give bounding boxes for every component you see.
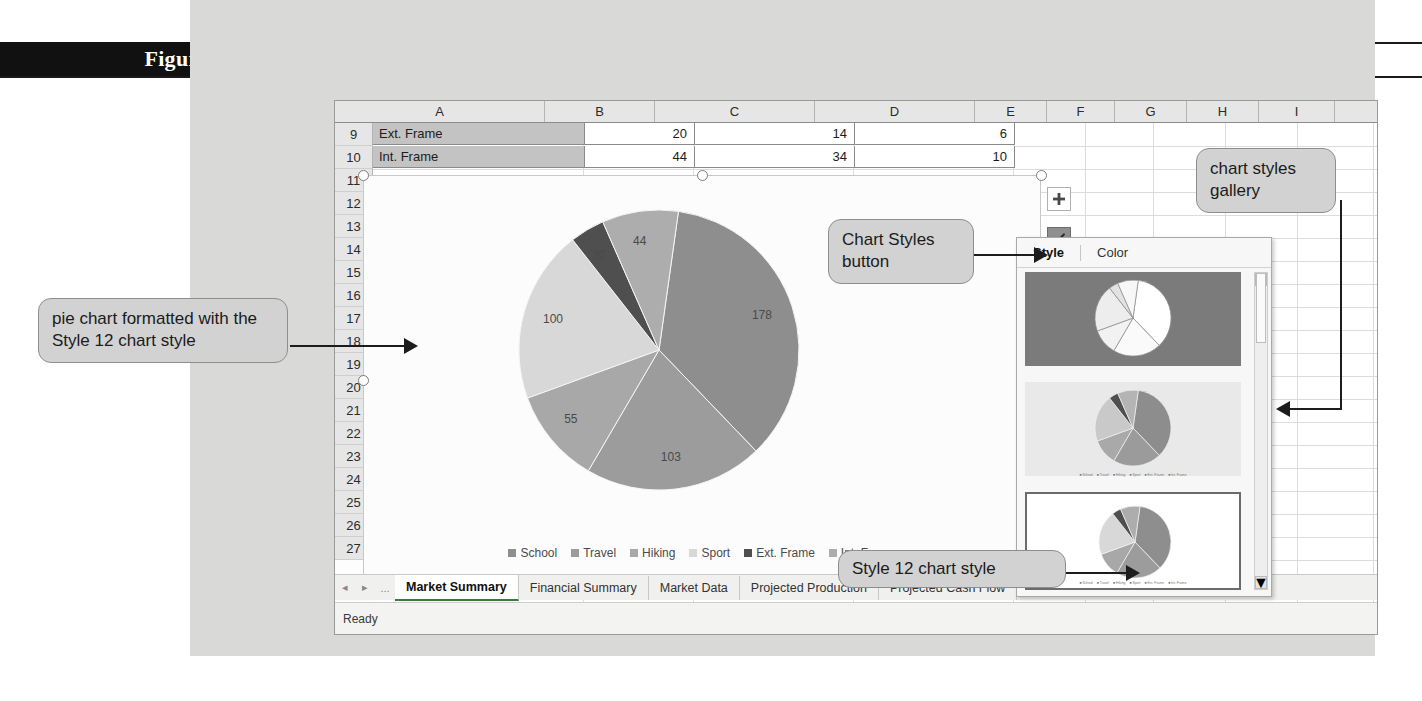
chart-resize-handle[interactable] xyxy=(1036,170,1047,181)
pie-data-label-travel: 103 xyxy=(661,450,681,464)
row-header-9[interactable]: 9 xyxy=(335,123,373,146)
legend-swatch-icon xyxy=(508,549,516,557)
cell-d10[interactable]: 10 xyxy=(855,146,1015,168)
thumbnail-legend-label: ■ School xyxy=(1079,473,1092,477)
plus-icon xyxy=(1051,191,1067,207)
cell-d9[interactable]: 6 xyxy=(855,123,1015,145)
thumbnail-legend-label: ■ Int. Frame xyxy=(1168,473,1186,477)
legend-label: Ext. Frame xyxy=(756,546,815,560)
gallery-tab-bar: Style Color xyxy=(1017,238,1271,268)
arrowhead-gallery xyxy=(1276,401,1290,417)
legend-item: Travel xyxy=(571,546,616,560)
legend-label: School xyxy=(520,546,557,560)
callout-chart-styles-button: Chart Styles button xyxy=(828,219,974,284)
sheet-tab-market-data[interactable]: Market Data xyxy=(649,576,740,600)
legend-swatch-icon xyxy=(630,549,638,557)
grid-vline xyxy=(1373,123,1374,634)
cell-a10[interactable]: Int. Frame xyxy=(373,146,585,168)
legend-label: Hiking xyxy=(642,546,675,560)
chart-resize-handle[interactable] xyxy=(358,375,369,386)
cell-c10[interactable]: 34 xyxy=(695,146,855,168)
legend-item: School xyxy=(508,546,557,560)
legend-item: Hiking xyxy=(630,546,675,560)
scroll-down-arrow-icon[interactable]: ▼ xyxy=(1255,576,1267,589)
pie-data-label-int-frame: 44 xyxy=(633,234,646,248)
sheet-overflow-ellipsis[interactable]: ... xyxy=(375,582,395,594)
pie-data-label-school: 178 xyxy=(752,308,772,322)
callout-chart-styles-gallery: chart styles gallery xyxy=(1196,148,1336,213)
row-header-10[interactable]: 10 xyxy=(335,146,373,169)
cell-b10[interactable]: 44 xyxy=(585,146,695,168)
leader-line-gallery-v xyxy=(1340,200,1342,410)
thumbnail-legend-label: ■ Int. Frame xyxy=(1168,581,1186,585)
status-text: Ready xyxy=(335,612,378,626)
column-header-h[interactable]: H xyxy=(1187,101,1259,122)
callout-style-12: Style 12 chart style xyxy=(838,550,1066,588)
thumbnail-legend-label: ■ Sport xyxy=(1129,581,1140,585)
pie-chart-svg xyxy=(494,200,824,505)
thumbnail-legend-label: ■ Ext. Frame xyxy=(1145,581,1165,585)
leader-line-style12 xyxy=(1066,572,1128,574)
column-header-g[interactable]: G xyxy=(1115,101,1187,122)
arrowhead-button xyxy=(1034,247,1048,263)
legend-swatch-icon xyxy=(829,549,837,557)
legend-label: Sport xyxy=(701,546,730,560)
pie-data-label-sport: 100 xyxy=(543,312,563,326)
thumbnail-pie-svg xyxy=(1025,382,1241,476)
style-thumbnail-hatched[interactable]: ■ School■ Travel■ Hiking■ Sport■ Ext. Fr… xyxy=(1025,382,1241,480)
sheet-tab-market-summary[interactable]: Market Summary xyxy=(395,575,519,601)
chart-styles-gallery[interactable]: Style Color ■ School■ Travel■ Hiking■ Sp… xyxy=(1016,237,1272,597)
legend-label: Travel xyxy=(583,546,616,560)
column-header-a[interactable]: A xyxy=(335,101,545,122)
cell-b9[interactable]: 20 xyxy=(585,123,695,145)
chart-elements-button[interactable] xyxy=(1047,187,1071,211)
thumbnail-legend-label: ■ Ext. Frame xyxy=(1145,473,1165,477)
gallery-thumbnail-list: ■ School■ Travel■ Hiking■ Sport■ Ext. Fr… xyxy=(1023,272,1251,590)
cell-a9[interactable]: Ext. Frame xyxy=(373,123,585,145)
arrowhead-pie xyxy=(404,338,418,354)
gallery-scrollbar[interactable]: ▲ ▼ xyxy=(1254,272,1268,590)
leader-line-gallery-h xyxy=(1288,408,1342,410)
style-thumbnail-dark[interactable] xyxy=(1025,272,1241,370)
thumbnail-legend-label: ■ Hiking xyxy=(1113,581,1125,585)
tab-style[interactable]: Style xyxy=(1017,239,1080,267)
legend-swatch-icon xyxy=(689,549,697,557)
column-header-c[interactable]: C xyxy=(655,101,815,122)
thumbnail-pie-svg xyxy=(1025,272,1241,366)
sheet-tab-financial-summary[interactable]: Financial Summary xyxy=(519,576,649,600)
chart-resize-handle[interactable] xyxy=(697,170,708,181)
arrowhead-style12 xyxy=(1126,565,1140,581)
legend-swatch-icon xyxy=(744,549,752,557)
pie-data-label-hiking: 55 xyxy=(564,412,577,426)
scrollbar-thumb[interactable] xyxy=(1256,273,1266,343)
thumbnail-legend-label: ■ Hiking xyxy=(1113,473,1125,477)
callout-pie-chart-style12: pie chart formatted with the Style 12 ch… xyxy=(38,298,288,363)
column-header-d[interactable]: D xyxy=(815,101,975,122)
chart-resize-handle[interactable] xyxy=(358,170,369,181)
column-header-i[interactable]: I xyxy=(1259,101,1335,122)
status-bar: Ready xyxy=(335,602,1377,634)
legend-item: Ext. Frame xyxy=(744,546,815,560)
pie-chart-plot-area: 178103551002044 xyxy=(494,200,824,505)
pie-data-label-ext-frame: 20 xyxy=(592,248,605,262)
leader-line-button xyxy=(974,254,1036,256)
thumbnail-legend: ■ School■ Travel■ Hiking■ Sport■ Ext. Fr… xyxy=(1025,473,1241,477)
column-header-e[interactable]: E xyxy=(975,101,1047,122)
thumbnail-legend-label: ■ Travel xyxy=(1097,473,1109,477)
leader-line-pie xyxy=(290,345,405,347)
legend-item: Sport xyxy=(689,546,730,560)
thumbnail-legend-label: ■ School xyxy=(1079,581,1092,585)
thumbnail-legend-label: ■ Sport xyxy=(1129,473,1140,477)
column-header-f[interactable]: F xyxy=(1047,101,1115,122)
tab-color[interactable]: Color xyxy=(1081,239,1144,267)
sheet-next-icon[interactable]: ▸ xyxy=(355,581,375,594)
legend-swatch-icon xyxy=(571,549,579,557)
thumbnail-legend-label: ■ Travel xyxy=(1097,581,1109,585)
sheet-prev-icon[interactable]: ◂ xyxy=(335,581,355,594)
cell-c9[interactable]: 14 xyxy=(695,123,855,145)
column-header-b[interactable]: B xyxy=(545,101,655,122)
